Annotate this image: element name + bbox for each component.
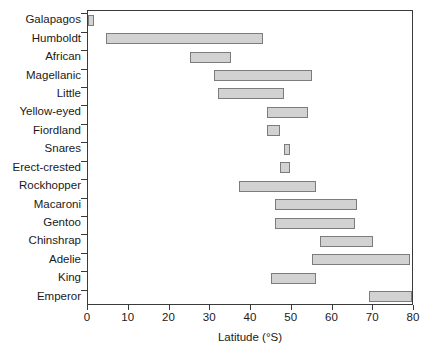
x-axis-tick-label: 0 bbox=[67, 311, 107, 324]
category-label: Adelie bbox=[49, 253, 81, 265]
x-axis-tick bbox=[87, 305, 88, 310]
category-label: Gentoo bbox=[43, 216, 81, 228]
range-bar bbox=[284, 144, 290, 155]
category-label: Galapagos bbox=[25, 13, 81, 25]
category-label: Little bbox=[57, 87, 81, 99]
range-bar bbox=[275, 199, 357, 210]
x-axis-tick-label: 80 bbox=[393, 311, 430, 324]
range-bar bbox=[239, 181, 316, 192]
category-label: Humboldt bbox=[32, 32, 81, 44]
category-axis: GalapagosHumboldtAfricanMagellanicLittle… bbox=[0, 10, 81, 305]
x-axis-tick bbox=[128, 305, 129, 310]
range-bar bbox=[312, 254, 410, 265]
x-axis-tick bbox=[291, 305, 292, 310]
x-axis-tick bbox=[413, 305, 414, 310]
range-bar bbox=[271, 273, 316, 284]
x-axis-tick bbox=[209, 305, 210, 310]
x-axis-tick-label: 40 bbox=[230, 311, 270, 324]
plot-area bbox=[87, 10, 413, 305]
category-label: Yellow-eyed bbox=[19, 105, 81, 117]
x-axis-tick-label: 50 bbox=[271, 311, 311, 324]
category-label: King bbox=[58, 271, 81, 283]
x-axis-tick bbox=[250, 305, 251, 310]
range-bar bbox=[320, 236, 373, 247]
latitude-range-chart: GalapagosHumboldtAfricanMagellanicLittle… bbox=[0, 0, 430, 357]
category-label: Rockhopper bbox=[19, 179, 81, 191]
category-label: Magellanic bbox=[26, 69, 81, 81]
category-label: Snares bbox=[45, 142, 81, 154]
range-bar bbox=[369, 291, 412, 302]
range-bar bbox=[106, 33, 263, 44]
x-axis-tick-label: 60 bbox=[312, 311, 352, 324]
range-bar bbox=[267, 125, 279, 136]
x-axis-tick bbox=[332, 305, 333, 310]
category-label: Emperor bbox=[37, 290, 81, 302]
x-axis: 01020304050607080 bbox=[87, 305, 413, 311]
range-bar bbox=[88, 15, 94, 26]
category-label: Fiordland bbox=[33, 124, 81, 136]
x-axis-tick-label: 30 bbox=[189, 311, 229, 324]
range-bar bbox=[267, 107, 308, 118]
x-axis-tick bbox=[372, 305, 373, 310]
x-axis-tick bbox=[169, 305, 170, 310]
category-label: Erect-crested bbox=[13, 161, 81, 173]
range-bar bbox=[280, 162, 290, 173]
range-bar bbox=[275, 218, 354, 229]
range-bar bbox=[218, 88, 283, 99]
category-label: Macaroni bbox=[34, 198, 81, 210]
x-axis-tick-label: 10 bbox=[108, 311, 148, 324]
category-label: African bbox=[45, 50, 81, 62]
range-bar bbox=[214, 70, 312, 81]
x-axis-title: Latitude (°S) bbox=[87, 331, 413, 343]
x-axis-tick-label: 20 bbox=[149, 311, 189, 324]
x-axis-tick-label: 70 bbox=[352, 311, 392, 324]
category-label: Chinshrap bbox=[29, 234, 81, 246]
range-bar bbox=[190, 52, 231, 63]
